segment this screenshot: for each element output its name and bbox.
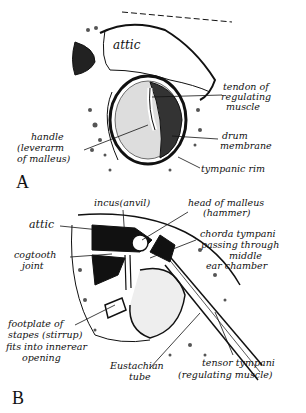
label-attic-a: attic bbox=[113, 40, 140, 50]
label-chorda-tympani: passing through bbox=[201, 240, 279, 250]
figure-a-drawing bbox=[73, 12, 233, 172]
label-chorda-tympani: ear chamber bbox=[206, 261, 267, 271]
label-cogtooth: joint bbox=[22, 261, 44, 271]
label-cogtooth: cogtooth bbox=[14, 250, 56, 260]
label-eustachian: Eustachian bbox=[110, 361, 164, 371]
label-tensor-tympani: (regulating muscle) bbox=[178, 370, 273, 380]
label-footplate: footplate of bbox=[8, 319, 63, 329]
label-eustachian: tube bbox=[129, 372, 151, 382]
label-drum-membrane: membrane bbox=[220, 141, 272, 151]
label-attic-b: attic bbox=[29, 220, 54, 230]
label-handle: of malleus) bbox=[17, 154, 70, 164]
label-incus: incus(anvil) bbox=[94, 198, 150, 208]
label-chorda-tympani: chorda tympani bbox=[200, 229, 276, 239]
label-footplate: stapes (stirrup) bbox=[8, 330, 82, 340]
label-handle: (leverarm bbox=[17, 143, 64, 153]
label-tympanic-rim: tympanic rim bbox=[201, 164, 265, 174]
figure-letter-a: A bbox=[16, 172, 29, 193]
label-handle: handle bbox=[31, 132, 64, 142]
label-footplate: opening bbox=[22, 353, 61, 363]
label-footplate: fits into innerear bbox=[6, 342, 87, 352]
label-tensor-tympani: tensor tympani bbox=[202, 358, 275, 368]
label-head-malleus: (hammer) bbox=[203, 208, 250, 218]
label-tendon: muscle bbox=[226, 102, 260, 112]
figure-letter-b: B bbox=[12, 388, 24, 409]
